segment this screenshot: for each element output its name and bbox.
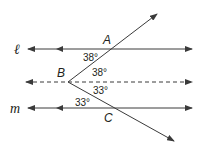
line-l-label: ℓ <box>14 42 20 57</box>
line-m-label: m <box>10 101 20 116</box>
parallel-lines-diagram: ℓ m A B C 38° 38° 33° 33° <box>0 0 200 154</box>
angle-label-AB-dashed: 38° <box>92 67 107 78</box>
ray-BC <box>68 82 174 141</box>
angle-label-m-C: 33° <box>75 97 90 108</box>
parallel-mark-l-icon <box>56 46 63 52</box>
point-B-label: B <box>57 66 65 80</box>
angle-label-l-A: 38° <box>83 52 98 63</box>
parallel-mark-m-icon <box>56 105 63 111</box>
point-C-label: C <box>104 111 113 125</box>
ray-BA <box>68 14 157 82</box>
point-A-label: A <box>102 33 111 47</box>
angle-label-dashed-BC: 33° <box>93 85 108 96</box>
